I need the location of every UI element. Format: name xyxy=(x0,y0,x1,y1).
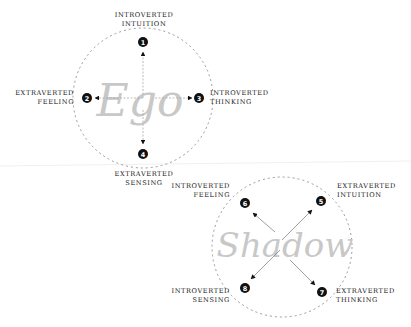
divider-line xyxy=(0,161,411,166)
badge-3: 3 xyxy=(194,93,204,103)
badge-6: 6 xyxy=(240,198,250,208)
label-introverted-thinking: Introverted Thinking xyxy=(210,89,290,107)
badge-2: 2 xyxy=(82,93,92,103)
svg-text:5: 5 xyxy=(319,198,324,206)
svg-text:2: 2 xyxy=(85,95,90,103)
label-extraverted-feeling: Extraverted Feeling xyxy=(2,89,74,107)
diagram-canvas: Ego 1 2 3 4 Shadow 5 6 7 8 xyxy=(0,0,411,327)
badge-8: 8 xyxy=(240,283,250,293)
label-introverted-feeling: Introverted Feeling xyxy=(160,182,230,200)
label-extraverted-thinking: Extraverted Thinking xyxy=(336,287,410,305)
svg-text:8: 8 xyxy=(243,285,248,293)
svg-text:1: 1 xyxy=(141,39,146,47)
badge-4: 4 xyxy=(138,149,148,159)
shadow-watermark: Shadow xyxy=(217,225,354,265)
label-extraverted-intuition: Extraverted Intuition xyxy=(337,182,411,200)
svg-text:4: 4 xyxy=(141,151,146,159)
label-introverted-intuition: Introverted Intuition xyxy=(108,11,180,29)
ego-watermark: Ego xyxy=(96,75,184,126)
badge-5: 5 xyxy=(316,196,326,206)
shadow-diagram: Shadow 5 6 7 8 xyxy=(212,177,353,317)
badge-7: 7 xyxy=(317,287,327,297)
svg-text:6: 6 xyxy=(243,200,248,208)
label-introverted-sensing: Introverted Sensing xyxy=(160,287,230,305)
svg-text:7: 7 xyxy=(320,289,325,297)
svg-text:3: 3 xyxy=(197,95,202,103)
badge-1: 1 xyxy=(138,37,148,47)
ego-diagram: Ego 1 2 3 4 xyxy=(73,28,213,168)
